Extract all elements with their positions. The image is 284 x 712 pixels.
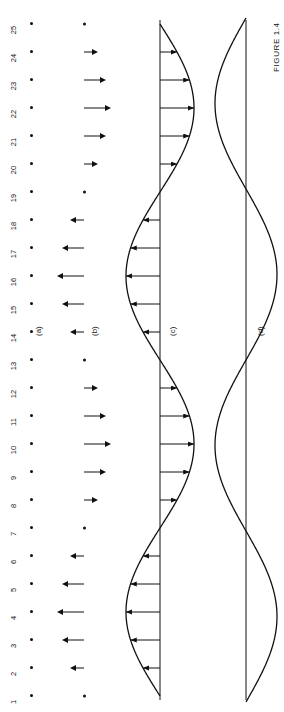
panel-a-label: (a) bbox=[34, 326, 43, 336]
node-dot bbox=[83, 359, 86, 362]
displacement-arrow-head bbox=[62, 637, 68, 643]
particle-number-label: 19 bbox=[10, 194, 18, 202]
displacement-arrow-head bbox=[100, 133, 106, 139]
particle-dot bbox=[30, 135, 33, 138]
particle-dot bbox=[30, 331, 33, 334]
particle-number-label: 20 bbox=[10, 166, 18, 174]
displacement-arrow-shaft bbox=[84, 444, 106, 445]
displacement-arrow-shaft bbox=[67, 248, 84, 249]
displacement-arrow-head bbox=[92, 49, 98, 55]
displacement-arrow-shaft bbox=[67, 304, 84, 305]
particle-dot bbox=[30, 163, 33, 166]
particle-number-label: 10 bbox=[10, 446, 18, 454]
particle-dot bbox=[30, 583, 33, 586]
particle-number-label: 21 bbox=[10, 138, 18, 146]
wave-profile-svg bbox=[112, 0, 208, 712]
particle-dot bbox=[30, 303, 33, 306]
displacement-arrow-shaft bbox=[84, 472, 101, 473]
panel-c-wave-profile: (c) bbox=[112, 0, 208, 712]
particle-dot bbox=[30, 667, 33, 670]
displacement-arrow-head bbox=[70, 665, 76, 671]
particle-dot bbox=[30, 695, 33, 698]
particle-number-label: 22 bbox=[10, 110, 18, 118]
displacement-arrow-head bbox=[57, 273, 63, 279]
particle-dot bbox=[30, 499, 33, 502]
particle-dot bbox=[30, 191, 33, 194]
displacement-arrow-shaft bbox=[84, 136, 101, 137]
displacement-arrow-shaft bbox=[84, 80, 101, 81]
displacement-arrow-head bbox=[62, 581, 68, 587]
particle-number-label: 11 bbox=[10, 418, 18, 426]
particle-number-label: 15 bbox=[10, 306, 18, 314]
particle-number-label: 2 bbox=[10, 672, 18, 676]
particle-dot bbox=[30, 275, 33, 278]
particle-dot bbox=[30, 527, 33, 530]
node-dot bbox=[83, 695, 86, 698]
particle-dot bbox=[30, 471, 33, 474]
displacement-arrow-shaft bbox=[67, 584, 84, 585]
displacement-arrow-head bbox=[62, 245, 68, 251]
particle-number-label: 16 bbox=[10, 278, 18, 286]
figure-root: 1234567891011121314151617181920212223242… bbox=[0, 0, 284, 712]
figure-plate: 1234567891011121314151617181920212223242… bbox=[0, 0, 284, 712]
particle-dot bbox=[30, 359, 33, 362]
particle-dot bbox=[30, 555, 33, 558]
particle-number-label: 9 bbox=[10, 476, 18, 480]
displacement-arrow-head bbox=[70, 553, 76, 559]
panel-a-particle-row: 1234567891011121314151617181920212223242… bbox=[0, 0, 56, 712]
particle-dot bbox=[30, 79, 33, 82]
displacement-arrow-head bbox=[92, 161, 98, 167]
displacement-arrow-head bbox=[100, 469, 106, 475]
particle-dot bbox=[30, 51, 33, 54]
displacement-arrow-shaft bbox=[84, 416, 101, 417]
particle-number-label: 13 bbox=[10, 362, 18, 370]
particle-dot bbox=[30, 247, 33, 250]
displacement-arrow-head bbox=[100, 77, 106, 83]
wave-curve-svg bbox=[208, 0, 284, 712]
particle-number-label: 25 bbox=[10, 26, 18, 34]
particle-number-label: 1 bbox=[10, 700, 18, 704]
displacement-arrow-shaft bbox=[84, 108, 106, 109]
displacement-arrow-shaft bbox=[75, 668, 84, 669]
particle-number-label: 24 bbox=[10, 54, 18, 62]
panel-b-displacement-arrows: (b) bbox=[56, 0, 112, 712]
node-dot bbox=[83, 23, 86, 26]
particle-number-label: 23 bbox=[10, 82, 18, 90]
particle-number-label: 4 bbox=[10, 616, 18, 620]
particle-dot bbox=[30, 611, 33, 614]
displacement-arrow-head bbox=[62, 301, 68, 307]
displacement-arrow-shaft bbox=[67, 640, 84, 641]
panel-d-label: (d) bbox=[256, 326, 265, 336]
displacement-arrow-head bbox=[92, 385, 98, 391]
particle-dot bbox=[30, 639, 33, 642]
particle-number-label: 6 bbox=[10, 560, 18, 564]
particle-dot bbox=[30, 107, 33, 110]
particle-dot bbox=[30, 415, 33, 418]
particle-dot bbox=[30, 387, 33, 390]
node-dot bbox=[83, 191, 86, 194]
displacement-arrow-shaft bbox=[75, 220, 84, 221]
panel-b-label: (b) bbox=[90, 326, 99, 336]
displacement-arrow-shaft bbox=[75, 332, 84, 333]
particle-number-label: 5 bbox=[10, 588, 18, 592]
displacement-arrow-shaft bbox=[62, 612, 84, 613]
particle-number-label: 8 bbox=[10, 504, 18, 508]
particle-number-label: 7 bbox=[10, 532, 18, 536]
node-dot bbox=[83, 527, 86, 530]
particle-dot bbox=[30, 219, 33, 222]
particle-number-label: 17 bbox=[10, 250, 18, 258]
particle-number-label: 3 bbox=[10, 644, 18, 648]
particle-number-label: 12 bbox=[10, 390, 18, 398]
figure-caption: FIGURE 1.4 bbox=[272, 22, 281, 72]
displacement-arrow-shaft bbox=[62, 276, 84, 277]
displacement-arrow-head bbox=[70, 329, 76, 335]
particle-number-label: 14 bbox=[10, 334, 18, 342]
displacement-arrow-head bbox=[70, 217, 76, 223]
panel-c-label: (c) bbox=[168, 327, 177, 336]
displacement-arrow-head bbox=[105, 105, 111, 111]
panel-d-wave-curve: (d) bbox=[208, 0, 284, 712]
particle-number-label: 18 bbox=[10, 222, 18, 230]
particle-dot bbox=[30, 443, 33, 446]
displacement-arrow-head bbox=[105, 441, 111, 447]
displacement-arrow-head bbox=[100, 413, 106, 419]
